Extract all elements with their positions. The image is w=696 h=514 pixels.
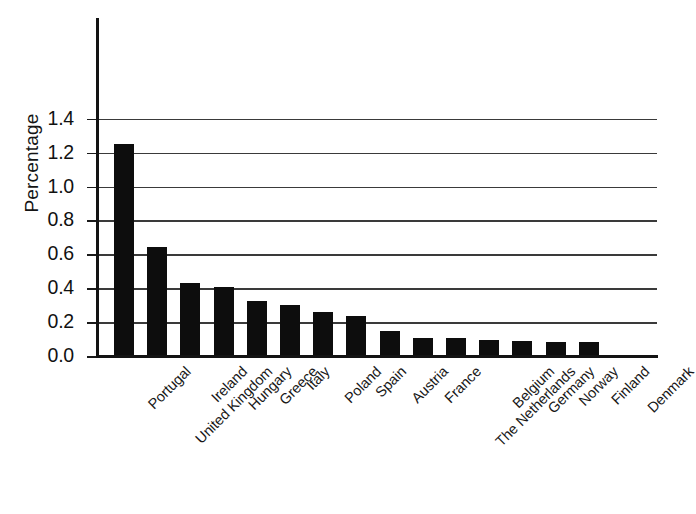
bar [180, 283, 200, 356]
y-axis-tick-label: 0.0 [22, 346, 74, 366]
bar [512, 341, 532, 356]
x-axis-label-text: France [442, 364, 484, 406]
bar-chart-figure: Percentage 0.00.20.40.60.81.01.21.4 Port… [0, 0, 696, 514]
x-axis-label: France [442, 364, 484, 406]
bar [579, 342, 599, 356]
gridline [96, 119, 657, 121]
y-axis-tick-label: 0.4 [22, 278, 74, 298]
gridline [96, 187, 657, 189]
bar [413, 338, 433, 356]
bar [214, 287, 234, 356]
y-axis-tick-label: 0.2 [22, 312, 74, 332]
y-axis-tick-label: 1.4 [22, 109, 74, 129]
x-axis-label: Portugal [146, 364, 194, 412]
bar [546, 342, 566, 356]
bar [479, 340, 499, 356]
y-axis-tick-label: 0.8 [22, 210, 74, 230]
x-axis-label: Denmark [645, 364, 696, 415]
bar [380, 331, 400, 356]
y-axis-tick-label: 1.2 [22, 143, 74, 163]
bar [313, 312, 333, 356]
bar [147, 247, 167, 356]
x-axis-label: Austria [409, 364, 451, 406]
bar [446, 338, 466, 356]
bar [247, 301, 267, 356]
gridline [96, 153, 657, 155]
gridline [96, 254, 657, 256]
bar [346, 316, 366, 356]
x-axis-label-text: Austria [409, 364, 451, 406]
y-axis-tick-labels: 0.00.20.40.60.81.01.21.4 [18, 0, 74, 514]
plot-area [96, 18, 658, 358]
y-axis-tick-label: 0.6 [22, 244, 74, 264]
bar [280, 305, 300, 356]
x-axis-label-text: Portugal [146, 364, 194, 412]
y-axis-line [96, 18, 99, 358]
x-axis-label-text: Denmark [645, 364, 696, 415]
gridline [96, 220, 657, 222]
x-axis-category-labels: PortugalUnited KingdomIrelandHungaryGree… [96, 358, 696, 514]
y-axis-tick-label: 1.0 [22, 177, 74, 197]
bar [114, 144, 134, 356]
